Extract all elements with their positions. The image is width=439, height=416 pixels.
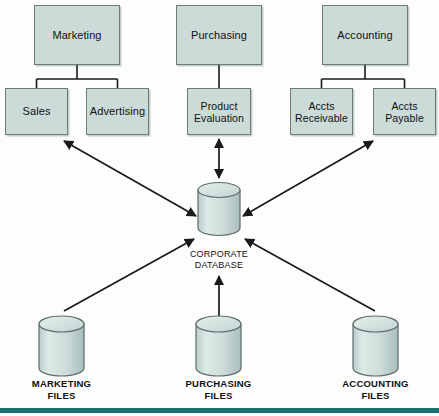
purchasing-files-label: PURCHASING FILES [168, 378, 269, 401]
dept-box-accts-payable[interactable]: Accts Payable [373, 88, 436, 135]
marketing-files-label: MARKETING FILES [11, 378, 112, 401]
connector-marketing-tree [37, 65, 118, 88]
purchasing-files-cylinder [196, 316, 241, 376]
arrow-accounting-to-database [243, 141, 373, 216]
dept-box-accts-receivable[interactable]: Accts Receivable [290, 88, 353, 135]
marketing-files-cylinder [39, 316, 84, 376]
corporate-database-label: CORPORATE DATABASE [169, 249, 269, 270]
dept-box-purchasing[interactable]: Purchasing [176, 5, 262, 65]
bottom-accent-band [0, 408, 439, 413]
corporate-database-cylinder [198, 183, 240, 236]
dept-box-product-evaluation[interactable]: Product Evaluation [187, 88, 251, 135]
diagram-canvas: Marketing Purchasing Accounting Sales Ad… [0, 0, 439, 416]
connector-accounting-tree [322, 65, 405, 88]
accounting-files-cylinder [353, 316, 398, 376]
dept-box-accounting[interactable]: Accounting [322, 5, 408, 65]
accounting-files-label: ACCOUNTING FILES [325, 378, 426, 401]
dept-box-advertising[interactable]: Advertising [86, 88, 149, 135]
dept-box-marketing[interactable]: Marketing [34, 5, 120, 65]
arrow-marketing-to-database [64, 141, 196, 216]
dept-box-sales[interactable]: Sales [5, 88, 68, 135]
